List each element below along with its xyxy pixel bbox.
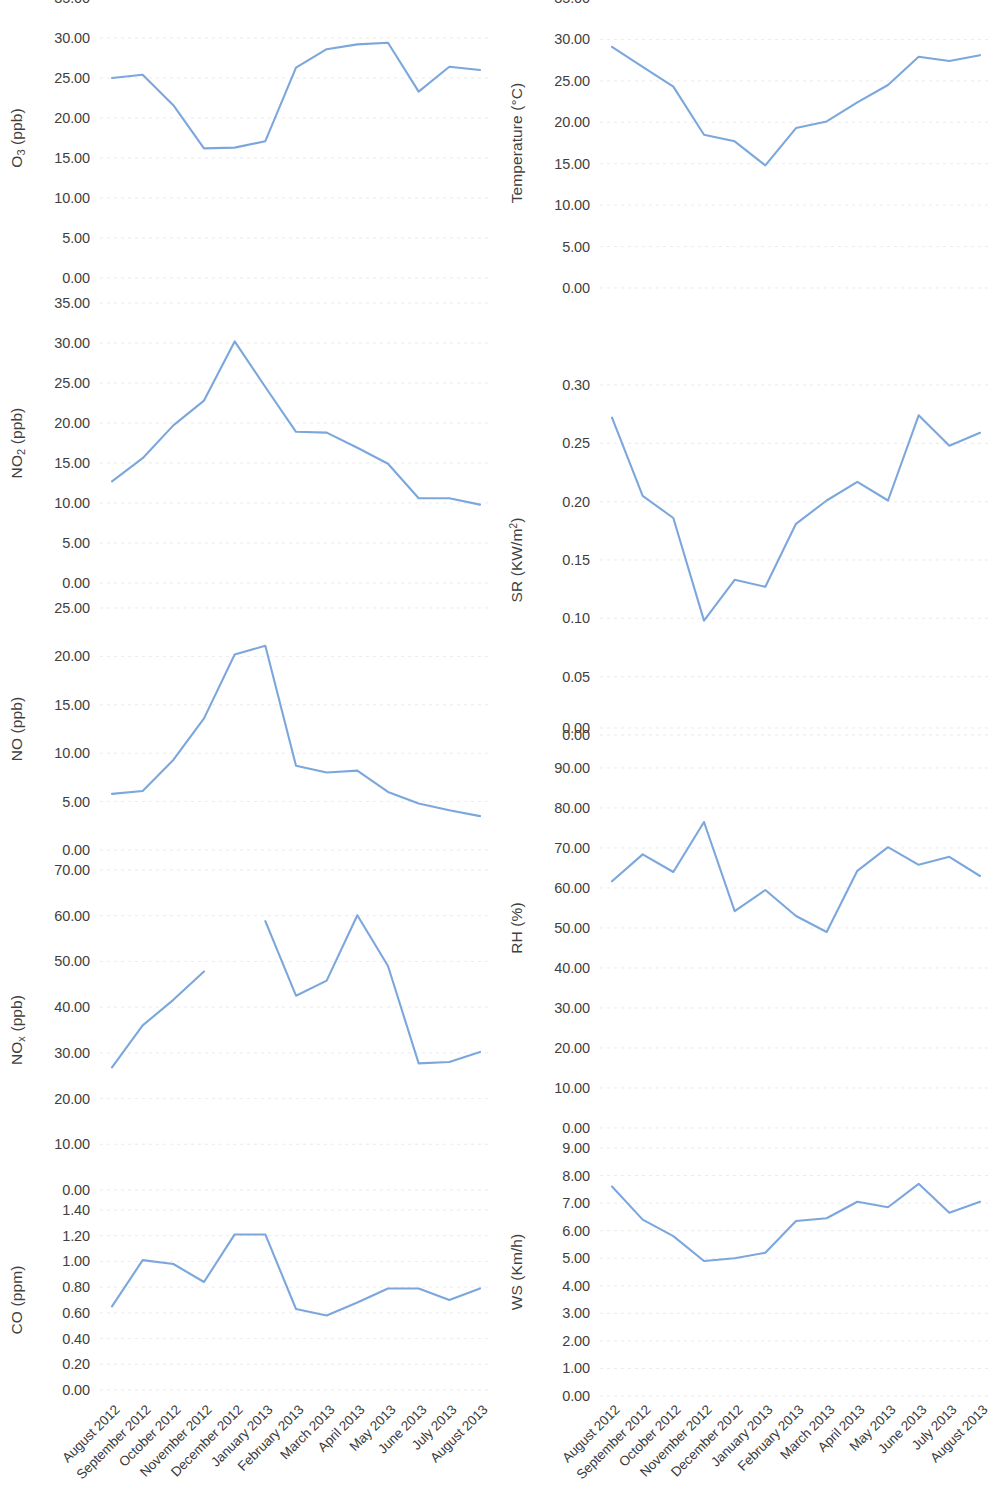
y-tick-label: 50.00: [54, 953, 90, 969]
y-tick-label: 0.05: [562, 669, 590, 685]
y-tick-label: 35.00: [54, 0, 90, 6]
plot-area-sr: [600, 375, 992, 745]
y-axis-title-no: NO (ppb): [0, 598, 34, 860]
y-tick-label: 30.00: [54, 1045, 90, 1061]
plot-area-o3: [100, 0, 492, 288]
y-axis-title-sr: SR (KW/m2): [500, 375, 534, 745]
series-line-co: [112, 1234, 480, 1315]
y-axis-ticks-sr: 0.000.050.100.150.200.250.30: [534, 375, 596, 745]
y-axis-ticks-temperature: 0.005.0010.0015.0020.0025.0030.0035.00: [534, 0, 596, 298]
chart-panel-nox: NOx (ppb)0.0010.0020.0030.0040.0050.0060…: [0, 860, 500, 1200]
chart-panel-temperature: Temperature (°C)0.005.0010.0015.0020.002…: [500, 0, 1000, 298]
y-axis-title-co: CO (ppm): [0, 1200, 34, 1400]
chart-panel-o3: O3 (ppb)0.005.0010.0015.0020.0025.0030.0…: [0, 0, 500, 288]
y-tick-label: 6.00: [562, 1223, 590, 1239]
y-axis-title-text: Temperature (°C): [508, 83, 526, 204]
y-tick-label: 0.00: [562, 720, 590, 736]
y-tick-label: 8.00: [562, 1168, 590, 1184]
y-tick-label: 9.00: [562, 1140, 590, 1156]
panel-inner-co: CO (ppm)0.000.200.400.600.801.001.201.40: [0, 1200, 500, 1400]
y-tick-label: 7.00: [562, 1195, 590, 1211]
y-tick-label: 5.00: [562, 239, 590, 255]
plot-area-rh: [600, 718, 992, 1138]
y-tick-label: 50.00: [554, 920, 590, 936]
y-tick-label: 0.10: [562, 610, 590, 626]
y-axis-ticks-co: 0.000.200.400.600.801.001.201.40: [34, 1200, 96, 1400]
panel-inner-ws: WS (Km/h)0.001.002.003.004.005.006.007.0…: [500, 1138, 1000, 1406]
y-axis-title-ws: WS (Km/h): [500, 1138, 534, 1406]
y-axis-title-rh: RH (%): [500, 718, 534, 1138]
y-tick-label: 20.00: [54, 648, 90, 664]
y-tick-label: 1.00: [562, 1360, 590, 1376]
y-tick-label: 20.00: [554, 114, 590, 130]
y-tick-label: 25.00: [554, 73, 590, 89]
y-tick-label: 15.00: [54, 697, 90, 713]
y-tick-label: 0.00: [62, 1182, 90, 1198]
series-line-o3: [112, 43, 480, 149]
panel-inner-rh: RH (%)0.0010.0020.0030.0040.0050.0060.00…: [500, 718, 1000, 1138]
y-tick-label: 5.00: [62, 230, 90, 246]
y-tick-label: 0.00: [562, 1120, 590, 1136]
y-tick-label: 1.20: [62, 1228, 90, 1244]
y-tick-label: 0.40: [62, 1331, 90, 1347]
y-axis-ticks-no: 0.005.0010.0015.0020.0025.00: [34, 598, 96, 860]
y-tick-label: 30.00: [54, 30, 90, 46]
y-tick-label: 30.00: [54, 335, 90, 351]
plot-area-no: [100, 598, 492, 860]
y-tick-label: 0.25: [562, 435, 590, 451]
series-line-temperature: [612, 47, 980, 165]
y-tick-label: 20.00: [54, 1091, 90, 1107]
panel-inner-o3: O3 (ppb)0.005.0010.0015.0020.0025.0030.0…: [0, 0, 500, 288]
y-tick-label: 5.00: [62, 794, 90, 810]
panel-inner-no: NO (ppb)0.005.0010.0015.0020.0025.00: [0, 598, 500, 860]
multi-panel-time-series-figure: O3 (ppb)0.005.0010.0015.0020.0025.0030.0…: [0, 0, 1000, 1512]
y-tick-label: 70.00: [54, 862, 90, 878]
y-axis-title-text: NOx (ppb): [8, 995, 26, 1065]
y-axis-title-text: NO (ppb): [8, 697, 26, 762]
y-tick-label: 3.00: [562, 1305, 590, 1321]
plot-area-nox: [100, 860, 492, 1200]
chart-panel-ws: WS (Km/h)0.001.002.003.004.005.006.007.0…: [500, 1138, 1000, 1406]
y-tick-label: 0.00: [62, 575, 90, 591]
y-tick-label: 0.15: [562, 552, 590, 568]
y-tick-label: 25.00: [54, 70, 90, 86]
y-axis-ticks-nox: 0.0010.0020.0030.0040.0050.0060.0070.00: [34, 860, 96, 1200]
y-tick-label: 10.00: [554, 1080, 590, 1096]
y-tick-label: 15.00: [554, 156, 590, 172]
y-tick-label: 25.00: [54, 600, 90, 616]
chart-panel-co: CO (ppm)0.000.200.400.600.801.001.201.40: [0, 1200, 500, 1400]
series-line-rh: [612, 822, 980, 932]
x-axis-labels-right: August 2012September 2012October 2012Nov…: [600, 1398, 992, 1512]
y-tick-label: 35.00: [54, 295, 90, 311]
y-axis-title-nox: NOx (ppb): [0, 860, 34, 1200]
y-tick-label: 0.00: [562, 280, 590, 296]
plot-area-co: [100, 1200, 492, 1400]
y-tick-label: 90.00: [554, 760, 590, 776]
panel-inner-nox: NOx (ppb)0.0010.0020.0030.0040.0050.0060…: [0, 860, 500, 1200]
panel-inner-sr: SR (KW/m2)0.000.050.100.150.200.250.30: [500, 375, 1000, 745]
y-axis-title-text: NO2 (ppb): [8, 408, 26, 479]
x-axis-labels-left: August 2012September 2012October 2012Nov…: [100, 1398, 492, 1512]
series-line-no: [112, 646, 480, 816]
y-tick-label: 0.00: [62, 1382, 90, 1398]
y-tick-label: 30.00: [554, 1000, 590, 1016]
y-tick-label: 2.00: [562, 1333, 590, 1349]
y-tick-label: 20.00: [54, 110, 90, 126]
y-axis-ticks-rh: 0.0010.0020.0030.0040.0050.0060.0070.008…: [534, 718, 596, 1138]
series-line-ws: [612, 1184, 980, 1261]
y-tick-label: 5.00: [62, 535, 90, 551]
y-tick-label: 60.00: [554, 880, 590, 896]
right-panel-column: Temperature (°C)0.005.0010.0015.0020.002…: [500, 0, 1000, 1512]
y-tick-label: 20.00: [554, 1040, 590, 1056]
panel-inner-temperature: Temperature (°C)0.005.0010.0015.0020.002…: [500, 0, 1000, 298]
y-tick-label: 40.00: [554, 960, 590, 976]
y-tick-label: 10.00: [554, 197, 590, 213]
plot-area-temperature: [600, 0, 992, 298]
left-panel-column: O3 (ppb)0.005.0010.0015.0020.0025.0030.0…: [0, 0, 500, 1512]
y-axis-ticks-no2: 0.005.0010.0015.0020.0025.0030.0035.00: [34, 293, 96, 593]
y-axis-title-text: RH (%): [508, 902, 526, 953]
y-tick-label: 0.80: [62, 1279, 90, 1295]
y-axis-ticks-ws: 0.001.002.003.004.005.006.007.008.009.00: [534, 1138, 596, 1406]
y-tick-label: 60.00: [54, 908, 90, 924]
y-axis-title-temperature: Temperature (°C): [500, 0, 534, 298]
